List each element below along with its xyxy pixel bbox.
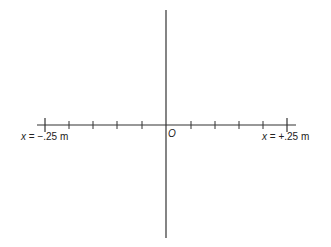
right-label-value: = +.25 m [267, 131, 309, 142]
left-endpoint-label: x = −.25 m [21, 131, 68, 142]
origin-label: O [168, 128, 176, 139]
right-endpoint-label: x = +.25 m [262, 131, 309, 142]
left-label-value: = −.25 m [26, 131, 68, 142]
axes-diagram [0, 0, 331, 247]
